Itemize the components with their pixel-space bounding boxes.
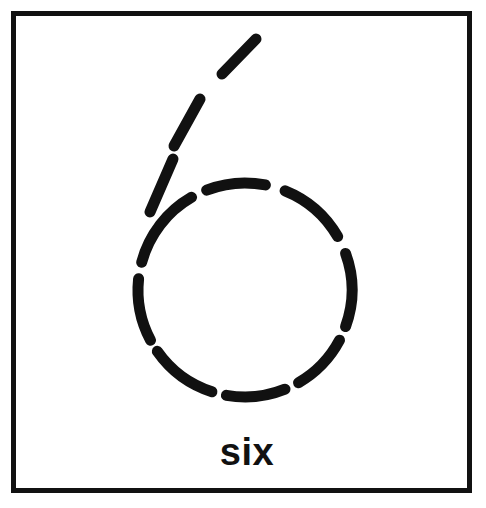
number-six-illustration: six <box>0 0 486 508</box>
flashcard: six <box>0 0 486 508</box>
caption-label: six <box>220 431 274 473</box>
